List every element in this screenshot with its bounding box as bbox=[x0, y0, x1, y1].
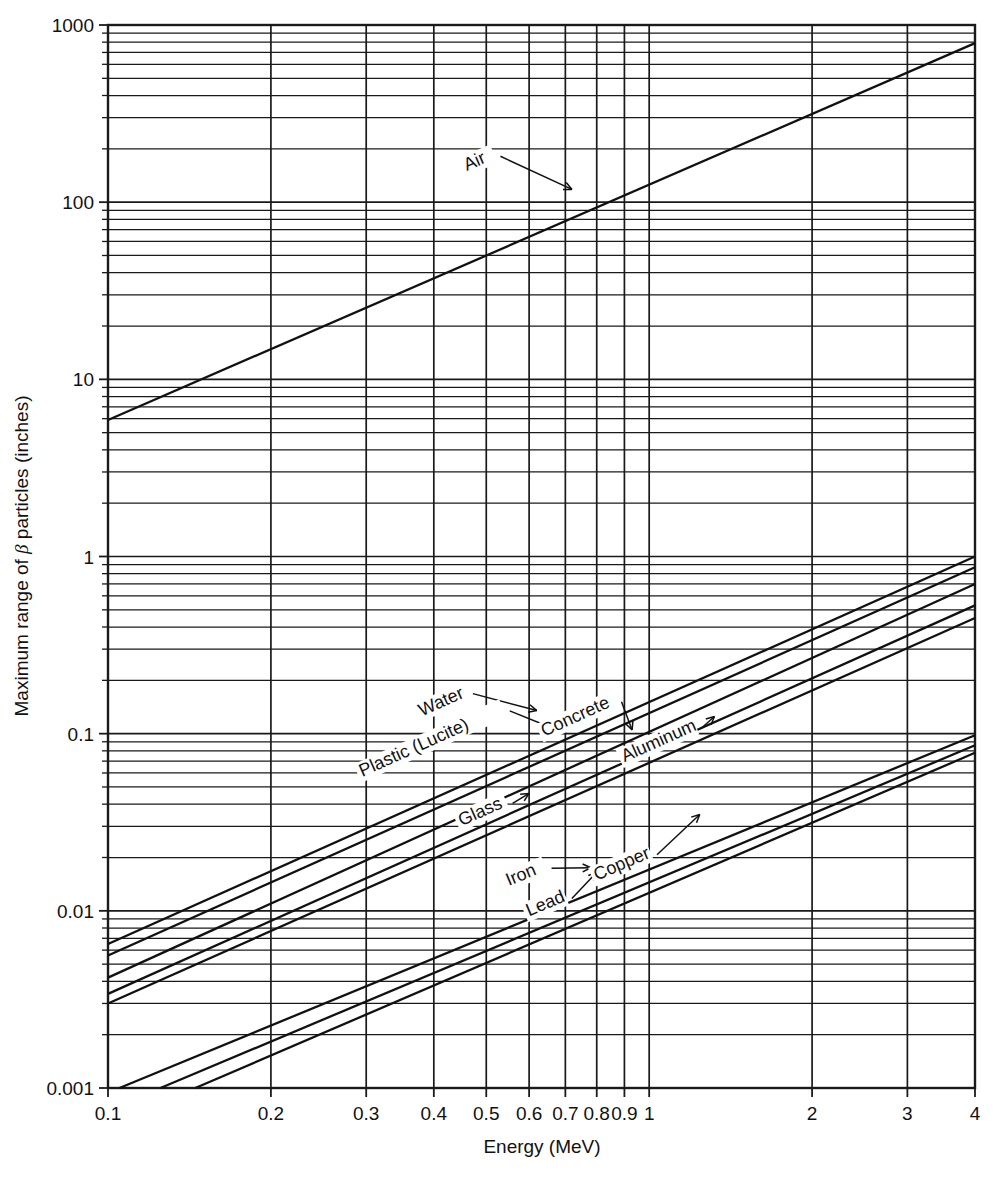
y-tick-label: 0.01 bbox=[57, 901, 94, 922]
series-label: Water bbox=[415, 683, 466, 721]
y-tick-label: 1 bbox=[83, 547, 94, 568]
x-tick-label: 0.7 bbox=[552, 1103, 578, 1124]
x-tick-label: 0.2 bbox=[258, 1103, 284, 1124]
x-tick-label: 3 bbox=[902, 1103, 913, 1124]
x-tick-labels: 0.10.20.30.40.50.60.70.80.91234 bbox=[95, 1103, 981, 1124]
leader-line bbox=[513, 793, 530, 803]
x-tick-label: 4 bbox=[970, 1103, 981, 1124]
log-log-chart: AirWaterPlastic (Lucite)ConcreteGlassAlu… bbox=[0, 0, 994, 1180]
series-lines bbox=[108, 43, 975, 1088]
series-label: Plastic (Lucite) bbox=[356, 714, 472, 780]
minor-gridlines bbox=[108, 33, 975, 1035]
y-axis-title-beta-symbol: β bbox=[11, 544, 32, 555]
x-tick-label: 0.6 bbox=[516, 1103, 542, 1124]
series-label: Copper bbox=[590, 843, 652, 885]
y-tick-labels: 0.0010.010.11101001000 bbox=[46, 15, 94, 1099]
y-axis-title-post: particles (inches) bbox=[11, 396, 32, 545]
leader-line bbox=[500, 156, 572, 189]
x-tick-label: 0.4 bbox=[421, 1103, 448, 1124]
x-axis-title: Energy (MeV) bbox=[483, 1136, 600, 1157]
x-tick-label: 2 bbox=[807, 1103, 818, 1124]
plot-frame bbox=[99, 25, 975, 1097]
y-axis-title-pre: Maximum range of bbox=[11, 554, 32, 717]
y-tick-label: 10 bbox=[73, 369, 94, 390]
y-axis-title: Maximum range of β particles (inches) bbox=[11, 396, 32, 717]
y-tick-label: 0.001 bbox=[46, 1078, 94, 1099]
series-label: Glass bbox=[455, 793, 505, 830]
x-tick-label: 0.3 bbox=[353, 1103, 379, 1124]
series-line bbox=[108, 618, 975, 1004]
x-tick-label: 0.9 bbox=[611, 1103, 637, 1124]
x-tick-label: 0.1 bbox=[95, 1103, 121, 1124]
beta-range-figure: AirWaterPlastic (Lucite)ConcreteGlassAlu… bbox=[0, 0, 994, 1180]
x-tick-label: 0.8 bbox=[584, 1103, 610, 1124]
leader-line bbox=[657, 814, 700, 854]
y-tick-label: 1000 bbox=[52, 15, 94, 36]
series-line bbox=[108, 43, 975, 420]
series-line bbox=[195, 753, 975, 1088]
x-tick-label: 0.5 bbox=[473, 1103, 499, 1124]
y-tick-label: 0.1 bbox=[68, 724, 94, 745]
x-tick-label: 1 bbox=[644, 1103, 655, 1124]
y-tick-label: 100 bbox=[62, 192, 94, 213]
leader-line bbox=[552, 864, 591, 872]
